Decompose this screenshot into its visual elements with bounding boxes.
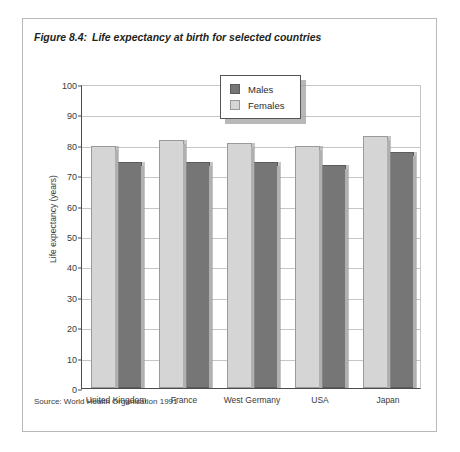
bar-females bbox=[159, 140, 184, 388]
legend-label: Males bbox=[248, 84, 273, 95]
bar-group: France bbox=[150, 86, 218, 388]
chart-area: Life expectancy (years) 1009080706050403… bbox=[23, 49, 438, 394]
figure-title: Life expectancy at birth for selected co… bbox=[92, 31, 321, 43]
x-axis-tick-label: Japan bbox=[328, 395, 448, 405]
plot-area: 1009080706050403020100United KingdomFran… bbox=[81, 85, 421, 389]
bar-males bbox=[117, 162, 142, 388]
y-axis-tick-label: 10 bbox=[67, 355, 77, 365]
legend-item-males: Males bbox=[230, 81, 284, 97]
y-axis-tick-label: 50 bbox=[67, 233, 77, 243]
bar-females bbox=[91, 146, 116, 388]
bar-group: USA bbox=[286, 86, 354, 388]
bar-males bbox=[253, 162, 278, 388]
legend-item-females: Females bbox=[230, 97, 284, 113]
chart-legend: MalesFemales bbox=[220, 75, 301, 119]
y-axis-title: Life expectancy (years) bbox=[48, 139, 58, 299]
y-axis-tick-mark bbox=[78, 390, 82, 391]
bar-males bbox=[185, 162, 210, 388]
y-axis-tick-label: 30 bbox=[67, 294, 77, 304]
source-note: Source: World Health Organisation 1991 bbox=[34, 397, 178, 406]
bar-group: Japan bbox=[354, 86, 422, 388]
y-axis-tick-label: 100 bbox=[62, 81, 77, 91]
y-axis-tick-label: 90 bbox=[67, 111, 77, 121]
bar-group: United Kingdom bbox=[82, 86, 150, 388]
figure-frame: Figure 8.4:Life expectancy at birth for … bbox=[22, 18, 437, 432]
y-axis-tick-label: 0 bbox=[72, 385, 77, 395]
bar-males bbox=[389, 152, 414, 388]
y-axis-tick-label: 70 bbox=[67, 172, 77, 182]
bar-females bbox=[295, 146, 320, 388]
y-axis-tick-label: 40 bbox=[67, 263, 77, 273]
y-axis-tick-label: 80 bbox=[67, 142, 77, 152]
legend-swatch-icon bbox=[230, 84, 240, 94]
y-axis-tick-label: 20 bbox=[67, 324, 77, 334]
legend-swatch-icon bbox=[230, 100, 240, 110]
bar-females bbox=[363, 136, 388, 388]
bar-females bbox=[227, 143, 252, 388]
figure-caption: Figure 8.4:Life expectancy at birth for … bbox=[34, 31, 424, 47]
figure-number: Figure 8.4: bbox=[34, 31, 92, 43]
bar-group: West Germany bbox=[218, 86, 286, 388]
y-axis-tick-label: 60 bbox=[67, 203, 77, 213]
legend-label: Females bbox=[248, 100, 284, 111]
bar-males bbox=[321, 165, 346, 388]
